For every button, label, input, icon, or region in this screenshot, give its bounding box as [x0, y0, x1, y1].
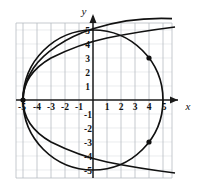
- y-axis-label: y: [81, 5, 87, 17]
- x-tick-label-2: 2: [119, 102, 124, 112]
- x-tick-label--4: -4: [33, 102, 41, 112]
- x-tick-label--1: -1: [75, 102, 83, 112]
- x-axis-arrow: [170, 97, 178, 104]
- x-tick-label-5: 5: [162, 102, 167, 112]
- graph-figure: y x -5 -4 -3 -2 -1 1 2 3 4 5 5 4 3 2 1 -…: [0, 0, 202, 188]
- y-tick-label--4: -4: [84, 152, 92, 162]
- y-tick-label--3: -3: [84, 138, 92, 148]
- y-tick-label-1: 1: [85, 82, 90, 92]
- point-intersection-lower: [146, 139, 151, 144]
- y-tick-label-4: 4: [85, 40, 90, 50]
- y-axis-arrow: [90, 14, 97, 23]
- point-intersection-upper: [146, 55, 151, 60]
- y-tick-label--5: -5: [84, 166, 92, 176]
- x-tick-label-4: 4: [147, 102, 152, 112]
- x-tick-label--2: -2: [61, 102, 69, 112]
- y-tick-label-5: 5: [85, 26, 90, 36]
- x-tick-label--3: -3: [47, 102, 55, 112]
- x-tick-label--5: -5: [18, 102, 26, 112]
- y-tick-label--1: -1: [84, 110, 92, 120]
- y-tick-label-3: 3: [85, 54, 90, 64]
- x-axis-label: x: [185, 100, 191, 112]
- x-tick-label-3: 3: [133, 102, 138, 112]
- x-tick-label-1: 1: [105, 102, 110, 112]
- y-tick-label-2: 2: [85, 68, 90, 78]
- coordinate-plane-svg: y x -5 -4 -3 -2 -1 1 2 3 4 5 5 4 3 2 1 -…: [0, 0, 202, 188]
- y-tick-label--2: -2: [84, 124, 92, 134]
